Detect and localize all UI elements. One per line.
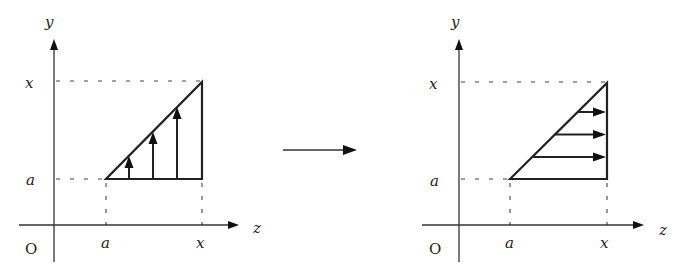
left-y-tick-x: x — [25, 74, 34, 92]
diagram-canvas: y z O x a a x y — [0, 0, 685, 280]
right-z-tick-a: a — [505, 234, 514, 252]
left-z-axis-label: z — [252, 219, 261, 237]
right-y-tick-a: a — [430, 172, 439, 190]
right-arrowhead-icon — [593, 130, 606, 139]
right-y-axis-arrowhead-icon — [455, 39, 463, 50]
right-z-axis-label: z — [658, 221, 667, 239]
left-origin-label: O — [25, 240, 37, 258]
right-origin-label: O — [429, 240, 441, 258]
right-y-tick-x: x — [429, 75, 438, 93]
left-z-tick-a: a — [101, 234, 110, 252]
right-region-triangle — [510, 83, 607, 179]
right-y-axis-label: y — [450, 13, 460, 31]
right-sweep-arrows — [532, 108, 606, 162]
left-z-axis-arrowhead-icon — [228, 221, 239, 229]
left-sweep-arrows — [125, 107, 182, 179]
left-y-tick-a: a — [26, 171, 35, 189]
right-panel: y z O x a a x — [422, 13, 667, 262]
right-arrowhead-icon — [593, 108, 606, 117]
right-arrowhead-icon — [343, 145, 357, 155]
left-z-tick-x: x — [196, 234, 205, 252]
left-y-axis-arrowhead-icon — [50, 39, 58, 50]
right-z-tick-x: x — [600, 234, 609, 252]
left-y-axis-label: y — [44, 13, 54, 31]
up-arrowhead-icon — [173, 107, 182, 119]
left-panel: y z O x a a x — [19, 13, 261, 262]
transition-arrow — [283, 145, 357, 155]
right-arrowhead-icon — [593, 153, 606, 162]
right-z-axis-arrowhead-icon — [633, 221, 644, 229]
